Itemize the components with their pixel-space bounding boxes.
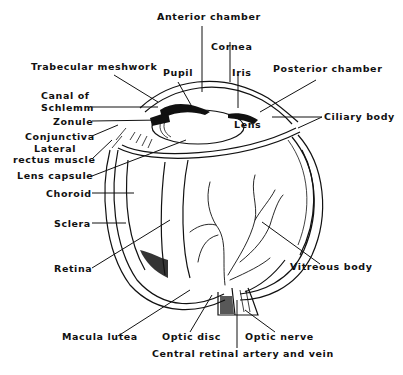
label-zonule: Zonule — [53, 116, 93, 127]
label-macula-lutea: Macula lutea — [62, 331, 138, 342]
eye-illustration: Anterior chamber Cornea Trabecular meshw… — [0, 0, 403, 375]
label-lens: Lens — [234, 119, 261, 130]
label-ciliary-body: Ciliary body — [324, 111, 395, 122]
label-canal-of-schlemm-line1: Canal of — [41, 90, 90, 101]
label-lens-capsule: Lens capsule — [17, 170, 93, 181]
label-cornea: Cornea — [211, 41, 252, 52]
label-optic-nerve: Optic nerve — [245, 331, 314, 342]
label-sclera: Sclera — [54, 218, 91, 229]
retinal-vessels — [190, 175, 283, 285]
label-conjunctiva: Conjunctiva — [25, 131, 95, 142]
label-optic-disc: Optic disc — [162, 331, 221, 342]
label-canal-of-schlemm-line2: Schlemm — [41, 102, 94, 113]
label-anterior-chamber: Anterior chamber — [157, 11, 261, 22]
label-vitreous-body: Vitreous body — [290, 261, 373, 272]
label-lateral-rectus-line2: rectus muscle — [13, 154, 95, 165]
eyeball-outline — [105, 135, 323, 310]
label-pupil: Pupil — [163, 67, 193, 78]
label-lateral-rectus-line1: Lateral — [34, 143, 76, 154]
label-choroid: Choroid — [46, 188, 92, 199]
label-posterior-chamber: Posterior chamber — [273, 63, 382, 74]
label-trabecular-meshwork: Trabecular meshwork — [31, 61, 157, 72]
lens-shape — [152, 110, 244, 144]
label-retina: Retina — [54, 263, 92, 274]
eye-anatomy-diagram: Anterior chamber Cornea Trabecular meshw… — [0, 0, 403, 375]
retina-flap — [127, 160, 190, 278]
label-central-retinal-artery-vein: Central retinal artery and vein — [152, 348, 334, 359]
label-iris: Iris — [232, 67, 252, 78]
